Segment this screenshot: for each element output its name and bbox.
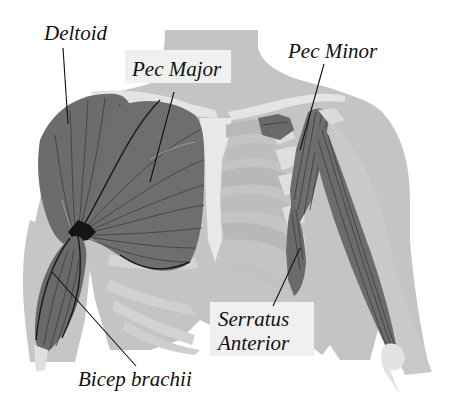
serratus-label-line1: Serratus — [218, 307, 289, 331]
bicep-label: Bicep brachii — [78, 367, 192, 391]
anatomy-diagram: Deltoid Pec Major Pec Minor Serratus Ant… — [0, 0, 463, 419]
pec-major-label: Pec Major — [131, 57, 222, 81]
serratus-label-line2: Anterior — [216, 331, 290, 355]
deltoid-label: Deltoid — [43, 21, 107, 45]
pec-minor-label: Pec Minor — [287, 39, 378, 63]
